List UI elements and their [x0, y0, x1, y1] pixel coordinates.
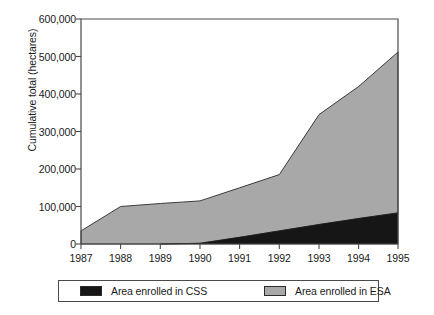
x-axis-ticks	[81, 244, 398, 249]
x-tick-label: 1990	[189, 252, 212, 264]
legend-label-esa: Area enrolled in ESA	[295, 285, 390, 297]
x-tick-label: 1995	[387, 252, 410, 264]
legend-label-css: Area enrolled in CSS	[111, 285, 207, 297]
legend-swatch-css-icon	[80, 286, 102, 296]
chart-legend: Area enrolled in CSS Area enrolled in ES…	[58, 280, 379, 302]
plot-area	[0, 0, 434, 315]
legend-item-esa: Area enrolled in ESA	[264, 281, 390, 301]
series-area-esa	[81, 52, 398, 244]
x-tick-label: 1993	[308, 252, 331, 264]
x-tick-label: 1994	[347, 252, 370, 264]
legend-swatch-esa-icon	[264, 286, 286, 296]
x-tick-label: 1988	[109, 252, 132, 264]
area-chart: Cumulative total (hectares) 600,000 500,…	[0, 0, 434, 315]
x-tick-label: 1987	[70, 252, 93, 264]
x-tick-label: 1992	[268, 252, 291, 264]
legend-item-css: Area enrolled in CSS	[80, 281, 207, 301]
y-axis-ticks	[76, 19, 81, 244]
x-tick-label: 1991	[228, 252, 251, 264]
x-tick-label: 1989	[149, 252, 172, 264]
